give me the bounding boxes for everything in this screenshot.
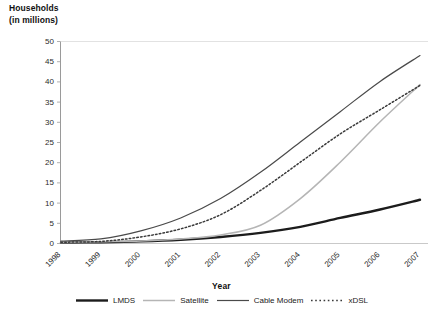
legend-item-lmds[interactable]: LMDS: [75, 296, 135, 305]
chart-svg: 05101520253035404550 1998199920002001200…: [0, 0, 443, 328]
series-line-xdsl: [61, 85, 420, 242]
legend-label: LMDS: [113, 296, 135, 305]
y-tick-label: 25: [45, 138, 54, 147]
y-tick-label: 0: [50, 239, 55, 248]
y-tick-label: 10: [45, 199, 54, 208]
y-tick-label: 45: [45, 57, 54, 66]
y-tick-label: 5: [50, 219, 55, 228]
chart-legend: LMDSSatelliteCable ModemxDSL: [0, 296, 443, 305]
x-axis-ticks: 1998199920002001200220032004200520062007: [43, 250, 421, 269]
y-tick-label: 50: [45, 37, 54, 46]
x-tick-label: 2002: [203, 250, 222, 269]
series-line-satellite: [61, 85, 420, 243]
data-series-layer: [61, 56, 420, 243]
x-tick-label: 1998: [43, 250, 62, 269]
x-tick-label: 1999: [83, 250, 102, 269]
x-tick-label: 2005: [323, 250, 342, 269]
line-swatch-thick-black: [75, 296, 109, 305]
x-tick-label: 2000: [123, 250, 142, 269]
legend-item-xdsl[interactable]: xDSL: [310, 296, 368, 305]
line-swatch-dark-gray: [216, 296, 250, 305]
line-swatch-light-gray: [142, 296, 176, 305]
y-tick-label: 30: [45, 118, 54, 127]
x-tick-label: 2007: [402, 250, 421, 269]
plot-area: 05101520253035404550 1998199920002001200…: [0, 0, 443, 328]
legend-item-satellite[interactable]: Satellite: [142, 296, 208, 305]
legend-item-cable-modem[interactable]: Cable Modem: [216, 296, 304, 305]
y-axis-ticks: 05101520253035404550: [45, 37, 60, 248]
y-tick-label: 35: [45, 98, 54, 107]
x-axis-title: Year: [0, 281, 443, 291]
x-tick-label: 2006: [363, 250, 382, 269]
y-tick-label: 20: [45, 158, 54, 167]
x-tick-label: 2001: [163, 250, 182, 269]
x-tick-label: 2004: [283, 250, 302, 269]
line-swatch-dotted: [310, 296, 344, 305]
x-tick-label: 2003: [243, 250, 262, 269]
y-tick-label: 15: [45, 178, 54, 187]
chart-container: Households (in millions) 051015202530354…: [0, 0, 443, 328]
legend-label: xDSL: [348, 296, 368, 305]
y-tick-label: 40: [45, 77, 54, 86]
legend-label: Cable Modem: [254, 296, 304, 305]
legend-label: Satellite: [180, 296, 208, 305]
